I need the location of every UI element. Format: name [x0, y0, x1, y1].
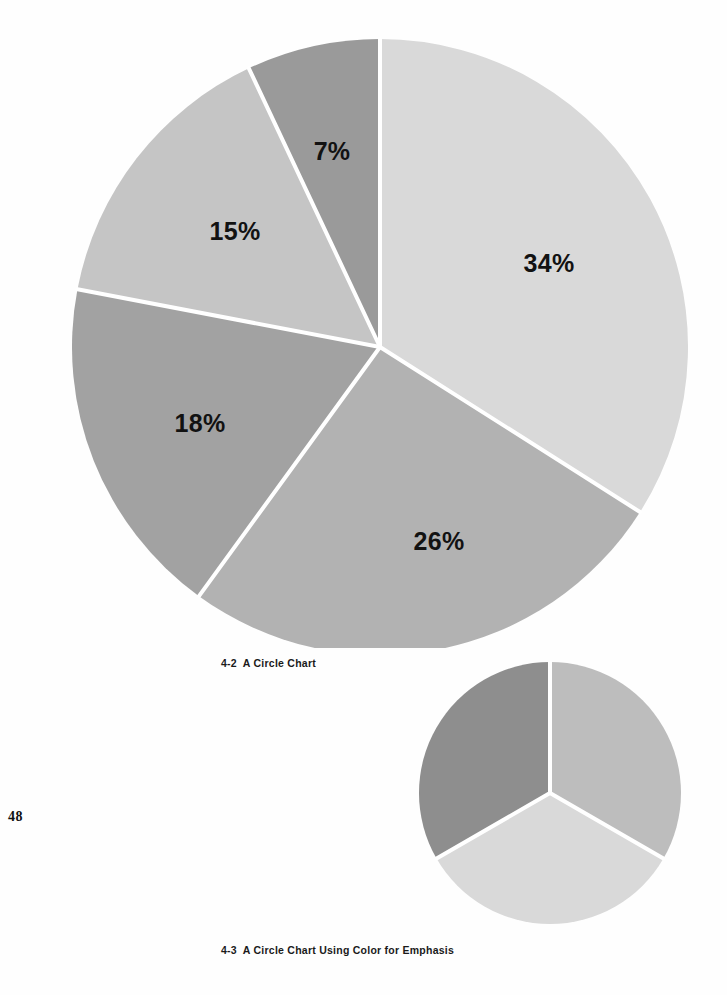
pie-chart-large: 34% 26% 18% 15% 7%: [72, 32, 688, 648]
slice-label-18: 18%: [175, 409, 226, 437]
figure-4-2-caption: 4-2 A Circle Chart: [221, 657, 316, 669]
slice-label-26: 26%: [414, 527, 465, 555]
slice-label-7: 7%: [314, 137, 351, 165]
figure-4-2-chart: 34% 26% 18% 15% 7%: [72, 32, 688, 648]
page-number: 48: [8, 809, 23, 825]
figure-4-3-chart: [418, 661, 682, 925]
slice-label-15: 15%: [210, 217, 261, 245]
figure-4-3-caption: 4-3 A Circle Chart Using Color for Empha…: [221, 944, 454, 956]
slice-label-34: 34%: [524, 249, 575, 277]
pie-chart-small: [418, 661, 682, 925]
book-page: 34% 26% 18% 15% 7% 4-2 A Circle Chart 48…: [0, 0, 727, 995]
